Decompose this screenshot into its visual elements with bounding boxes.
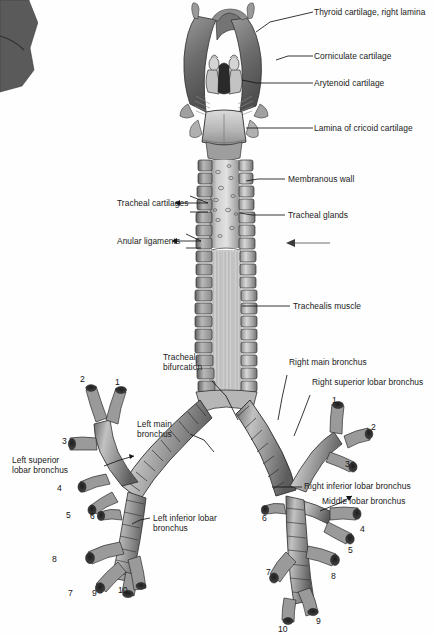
label-right-inferior-lobar-bronchus: Right inferior lobar bronchus bbox=[304, 481, 411, 492]
left-segment-number-5: 5 bbox=[66, 511, 71, 520]
left-segment-number-7: 7 bbox=[68, 589, 73, 598]
label-anular-ligaments: Anular ligaments bbox=[117, 236, 180, 247]
right-segment-number-1: 1 bbox=[332, 396, 337, 405]
right-segment-number-6: 6 bbox=[262, 514, 267, 523]
left-segment-number-9: 9 bbox=[92, 589, 97, 598]
right-segment-number-4: 4 bbox=[360, 525, 365, 534]
left-segment-number-8: 8 bbox=[52, 555, 57, 564]
label-left-superior-lobar-bronchus-line2: lobar bronchus bbox=[12, 465, 68, 476]
right-segment-number-7: 7 bbox=[266, 568, 271, 577]
label-left-main-bronchus-line1: Left main bbox=[137, 419, 172, 430]
label-left-inferior-lobar-bronchus-line2: bronchus bbox=[153, 523, 188, 534]
illustration-artwork bbox=[0, 0, 434, 635]
label-right-superior-lobar-bronchus: Right superior lobar bronchus bbox=[312, 377, 423, 388]
adjacent-figure-fragment bbox=[0, 0, 42, 92]
right-segment-number-9: 9 bbox=[316, 617, 321, 626]
right-segment-number-5: 5 bbox=[348, 546, 353, 555]
label-corniculate-cartilage: Corniculate cartilage bbox=[314, 51, 391, 62]
larynx bbox=[180, 3, 268, 161]
tracheal-bifurcation bbox=[122, 390, 296, 500]
right-bronchial-tree bbox=[261, 402, 372, 625]
right-segment-number-2: 2 bbox=[371, 423, 376, 432]
label-tracheal-bifurcation-line2: bifurcation bbox=[163, 362, 202, 373]
label-left-inferior-lobar-bronchus-line1: Left inferior lobar bbox=[153, 513, 217, 524]
label-right-main-bronchus: Right main bronchus bbox=[289, 357, 367, 368]
anatomical-figure: Thyroid cartilage, right lamina Cornicul… bbox=[0, 0, 434, 635]
tracheal-cartilage-rings-right bbox=[239, 160, 257, 392]
label-tracheal-cartilages: Tracheal cartilages bbox=[117, 198, 188, 209]
left-segment-number-4: 4 bbox=[57, 484, 62, 493]
left-segment-number-10: 10 bbox=[118, 586, 128, 595]
label-tracheal-bifurcation-line1: Tracheal bbox=[163, 352, 196, 363]
label-lamina-of-cricoid-cartilage: Lamina of cricoid cartilage bbox=[314, 123, 413, 134]
unlabeled-pointer-arrow bbox=[286, 239, 330, 247]
label-thyroid-cartilage-right-lamina: Thyroid cartilage, right lamina bbox=[314, 7, 425, 18]
right-segment-number-10: 10 bbox=[278, 625, 288, 634]
label-middle-lobar-bronchus: Middle lobar bronchus bbox=[322, 496, 405, 507]
left-segment-number-2: 2 bbox=[80, 375, 85, 384]
right-segment-number-8: 8 bbox=[331, 572, 336, 581]
label-left-main-bronchus-line2: bronchus bbox=[137, 429, 172, 440]
label-tracheal-glands: Tracheal glands bbox=[288, 210, 348, 221]
label-trachealis-muscle: Trachealis muscle bbox=[293, 301, 361, 312]
right-segment-number-3: 3 bbox=[345, 460, 350, 469]
label-arytenoid-cartilage: Arytenoid cartilage bbox=[314, 78, 384, 89]
left-segment-number-1: 1 bbox=[115, 378, 120, 387]
label-left-superior-lobar-bronchus-line1: Left superior bbox=[12, 455, 59, 466]
trachea bbox=[195, 160, 257, 400]
left-segment-number-3: 3 bbox=[62, 437, 67, 446]
label-membranous-wall: Membranous wall bbox=[288, 174, 354, 185]
left-segment-number-6: 6 bbox=[90, 512, 95, 521]
